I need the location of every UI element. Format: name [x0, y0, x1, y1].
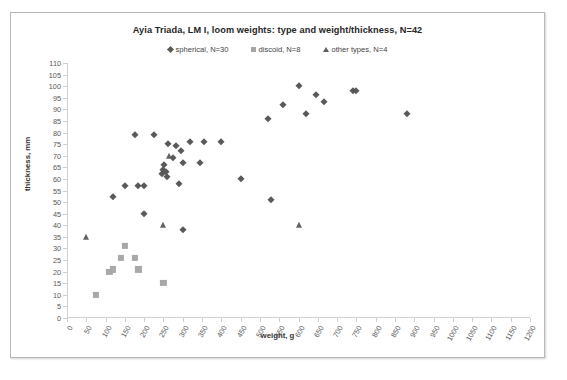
y-tick-label: 45 [53, 209, 61, 218]
legend-label-spherical: spherical, N=30 [176, 45, 229, 54]
legend-label-discoid: discoid, N=8 [259, 45, 301, 54]
x-tick [530, 318, 531, 322]
legend-item-discoid[interactable]: discoid, N=8 [251, 45, 301, 54]
x-tick [163, 318, 164, 322]
y-tick [63, 306, 67, 307]
y-tick-label: 25 [53, 256, 61, 265]
y-tick-label: 80 [53, 128, 61, 137]
y-tick-label: 55 [53, 186, 61, 195]
y-tick [63, 109, 67, 110]
y-axis-line [67, 63, 68, 318]
x-tick [453, 318, 454, 322]
x-tick [376, 318, 377, 322]
data-point [160, 280, 166, 286]
y-tick-label: 35 [53, 232, 61, 241]
data-point [93, 292, 99, 298]
y-tick-label: 60 [53, 174, 61, 183]
y-tick-label: 70 [53, 151, 61, 160]
y-tick-label: 0 [57, 314, 61, 323]
y-tick [63, 260, 67, 261]
chart-frame: Ayia Triada, LM I, loom weights: type an… [10, 12, 545, 358]
x-tick [414, 318, 415, 322]
y-tick-label: 50 [53, 198, 61, 207]
x-tick [299, 318, 300, 322]
x-tick [260, 318, 261, 322]
y-tick-label: 105 [49, 70, 61, 79]
y-tick [63, 295, 67, 296]
data-point [166, 152, 172, 158]
y-tick-label: 5 [57, 302, 61, 311]
y-tick [63, 156, 67, 157]
data-point [160, 222, 166, 228]
y-tick-label: 20 [53, 267, 61, 276]
x-tick [337, 318, 338, 322]
y-tick [63, 98, 67, 99]
y-tick-label: 100 [49, 82, 61, 91]
y-tick [63, 144, 67, 145]
y-tick-label: 10 [53, 290, 61, 299]
plot-background [67, 63, 530, 318]
y-tick [63, 202, 67, 203]
x-tick [511, 318, 512, 322]
y-tick [63, 167, 67, 168]
chart-title: Ayia Triada, LM I, loom weights: type an… [11, 25, 544, 35]
diamond-icon [166, 46, 173, 53]
y-tick-label: 30 [53, 244, 61, 253]
y-tick-label: 90 [53, 105, 61, 114]
x-tick [67, 318, 68, 322]
y-tick [63, 283, 67, 284]
data-point [83, 234, 89, 240]
data-point [118, 255, 124, 261]
y-tick [63, 86, 67, 87]
y-axis-title: thickness, mm [23, 137, 32, 191]
legend-item-spherical[interactable]: spherical, N=30 [168, 45, 229, 54]
y-tick [63, 75, 67, 76]
x-tick [202, 318, 203, 322]
data-point [110, 266, 116, 272]
x-tick [241, 318, 242, 322]
y-tick [63, 237, 67, 238]
x-tick [144, 318, 145, 322]
y-tick-label: 110 [49, 59, 61, 68]
y-tick [63, 191, 67, 192]
y-tick [63, 133, 67, 134]
triangle-icon [323, 47, 329, 52]
x-tick [183, 318, 184, 322]
y-tick [63, 225, 67, 226]
legend-item-other[interactable]: other types, N=4 [323, 45, 388, 54]
y-tick [63, 214, 67, 215]
x-tick [106, 318, 107, 322]
x-tick [395, 318, 396, 322]
square-icon [251, 47, 256, 52]
x-tick [434, 318, 435, 322]
y-tick-label: 15 [53, 279, 61, 288]
x-tick [491, 318, 492, 322]
x-tick [125, 318, 126, 322]
y-tick [63, 248, 67, 249]
x-tick [356, 318, 357, 322]
y-tick-label: 75 [53, 140, 61, 149]
x-tick [279, 318, 280, 322]
y-tick [63, 272, 67, 273]
x-tick [472, 318, 473, 322]
data-point [131, 255, 137, 261]
legend-label-other: other types, N=4 [332, 45, 388, 54]
chart-legend: spherical, N=30 discoid, N=8 other types… [11, 45, 544, 54]
x-tick [86, 318, 87, 322]
data-point [122, 243, 128, 249]
data-point [296, 222, 302, 228]
x-tick [318, 318, 319, 322]
y-tick-label: 40 [53, 221, 61, 230]
plot-area: 0510152025303540455055606570758085909510… [67, 63, 530, 318]
y-tick-label: 85 [53, 116, 61, 125]
y-tick [63, 121, 67, 122]
y-tick [63, 179, 67, 180]
y-tick-label: 95 [53, 93, 61, 102]
data-point [135, 266, 141, 272]
x-tick [221, 318, 222, 322]
y-tick-label: 65 [53, 163, 61, 172]
y-tick [63, 63, 67, 64]
